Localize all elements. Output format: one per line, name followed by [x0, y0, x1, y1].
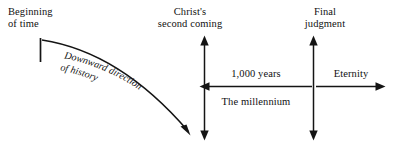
- second-coming-axis-arrowhead-top: [200, 36, 208, 46]
- eschatology-timeline-diagram: Beginning of time Christ's second coming…: [0, 0, 405, 150]
- diagram-vector-layer: Downward direction of history: [0, 0, 405, 150]
- second-coming-axis-arrowhead-bottom: [200, 131, 208, 141]
- eternity-span-arrowhead-right: [376, 82, 386, 90]
- final-judgment-axis-arrowhead-bottom: [309, 131, 317, 141]
- history-curve-arrowhead: [181, 125, 191, 136]
- final-judgment-axis-arrowhead-top: [309, 36, 317, 46]
- history-curve-arrow-shaft: [42, 40, 188, 131]
